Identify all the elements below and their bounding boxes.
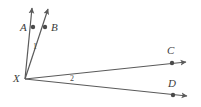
ray-xc: [25, 62, 186, 79]
rays-group: [25, 8, 187, 96]
point-dot-a: [31, 25, 35, 29]
point-label-d: D: [168, 78, 176, 89]
vertex-label-x: X: [13, 73, 20, 84]
point-dot-c: [170, 61, 174, 65]
angle-label-1: 1: [33, 43, 37, 51]
point-label-b: B: [51, 22, 58, 33]
point-dot-b: [43, 25, 47, 29]
point-label-a: A: [20, 22, 27, 33]
point-label-c: C: [167, 45, 174, 56]
angle-label-2: 2: [70, 75, 74, 83]
ray-xd: [25, 79, 187, 96]
geometry-figure: X A B C D 1 2: [0, 0, 201, 107]
point-dots-group: [31, 25, 175, 97]
point-dot-d: [171, 93, 175, 97]
